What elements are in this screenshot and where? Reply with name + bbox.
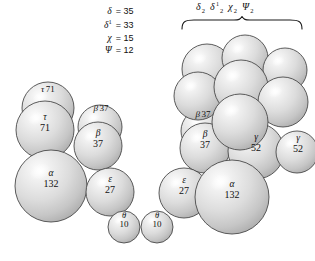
legend-value: = 12	[116, 45, 134, 57]
brace-label-part: χ2	[228, 1, 238, 12]
parameter-legend: δ= 35δ1= 33χ= 15Ψ= 12	[104, 6, 133, 57]
legend-symbol: Ψ	[104, 45, 116, 57]
brace-label-part: Ψ2	[242, 1, 255, 12]
legend-symbol: χ	[104, 33, 116, 45]
brace-label-part: δ2	[196, 1, 206, 12]
sphere-right-theta	[141, 211, 173, 243]
legend-row: Ψ= 12	[104, 45, 133, 57]
legend-row: χ= 15	[104, 33, 133, 45]
sphere-cluster-low-1	[212, 94, 268, 150]
brace-label-part: δ12	[210, 1, 225, 12]
legend-value: = 15	[116, 33, 134, 45]
brace-icon	[180, 16, 304, 30]
sphere-left-epsilon	[86, 168, 134, 216]
figure-root: τ71β37β37τ71β37β37γ52γ52α132ε27ε27α132θ1…	[0, 0, 315, 261]
legend-symbol: δ1	[104, 18, 116, 32]
legend-row: δ= 35	[104, 6, 133, 18]
legend-value: = 33	[116, 18, 134, 32]
legend-symbol: δ	[104, 6, 116, 18]
brace-label: δ2 δ12 χ2 Ψ2	[196, 1, 255, 14]
sphere-left-alpha	[15, 150, 87, 222]
sphere-right-gamma-2	[276, 131, 315, 173]
legend-value: = 35	[116, 6, 134, 18]
legend-row: δ1= 33	[104, 18, 133, 32]
sphere-layer	[0, 0, 315, 261]
sphere-left-beta-front	[74, 122, 122, 170]
sphere-left-theta	[108, 211, 140, 243]
sphere-right-alpha	[195, 160, 269, 234]
legend-table: δ= 35δ1= 33χ= 15Ψ= 12	[104, 6, 133, 57]
